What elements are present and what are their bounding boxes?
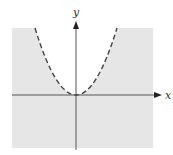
shaded-region [12, 28, 153, 148]
x-axis-arrow-icon [154, 92, 162, 98]
y-axis-label: y [72, 6, 80, 19]
y-axis-arrow-icon [73, 21, 79, 29]
x-axis-label: x [165, 89, 172, 102]
inequality-graph: x y [0, 0, 173, 155]
